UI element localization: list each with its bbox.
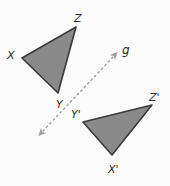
geometry-figure: X Z Y Y' Z' X' g xyxy=(0,0,170,186)
triangle-xyz xyxy=(22,27,76,93)
figure-canvas: X Z Y Y' Z' X' g xyxy=(0,0,170,186)
vertex-label-x: X xyxy=(6,49,15,62)
vertex-label-y-prime: Y' xyxy=(71,108,81,121)
vertex-label-z: Z xyxy=(73,12,82,25)
vertex-label-y: Y xyxy=(56,98,64,111)
triangle-x-prime-y-prime-z-prime xyxy=(83,105,152,155)
vertex-label-z-prime: Z' xyxy=(148,91,160,104)
vertex-label-x-prime: X' xyxy=(107,163,119,176)
mirror-line-label-g: g xyxy=(122,43,130,57)
